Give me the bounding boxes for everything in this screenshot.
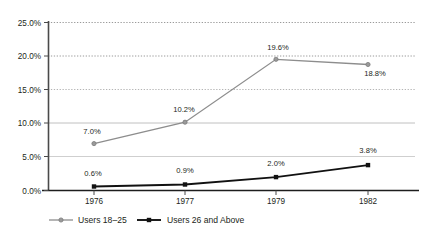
data-point-marker[interactable] [366,62,370,66]
x-tick-label-1977: 1977 [176,197,195,206]
series-2-data-labels: 0.6% 0.9% 2.0% 3.8% [84,146,377,178]
legend-circle-marker-icon [59,218,63,222]
data-point-marker[interactable] [183,120,187,124]
y-tick-label-20: 20.0% [18,52,41,61]
legend-label-users-26-and-above: Users 26 and Above [167,215,245,225]
legend-item-users-26-and-above[interactable]: Users 26 and Above [137,215,245,225]
y-tick-label-15: 15.0% [18,86,41,95]
data-point-marker[interactable] [183,182,187,186]
y-tick-label-10: 10.0% [18,119,41,128]
data-label: 19.6% [267,43,289,52]
data-label: 3.8% [359,146,377,155]
series-users-26-and-above: 0.6% 0.9% 2.0% 3.8% [84,146,377,189]
x-tick-label-1982: 1982 [359,197,378,206]
y-tick-label-5: 5.0% [22,153,41,162]
legend-item-users-18-25[interactable]: Users 18–25 [49,215,127,225]
data-point-marker[interactable] [366,163,370,167]
data-point-marker[interactable] [274,175,278,179]
chart-canvas: 25.0% 20.0% 15.0% 10.0% 5.0% 0.0% 1976 1… [0,0,437,240]
data-point-marker[interactable] [92,142,96,146]
series-users-18-25: 7.0% 10.2% 19.6% 18.8% [83,43,386,146]
data-label: 0.6% [84,169,102,178]
data-label: 18.8% [364,69,386,78]
line-chart: 25.0% 20.0% 15.0% 10.0% 5.0% 0.0% 1976 1… [0,0,437,240]
series-1-line [94,59,368,143]
legend-label-users-18-25: Users 18–25 [78,215,127,225]
series-1-markers [92,57,370,146]
x-axis-labels: 1976 1977 1979 1982 [85,197,378,206]
data-point-marker[interactable] [274,57,278,61]
legend-square-marker-icon [147,218,151,222]
data-label: 7.0% [83,127,101,136]
data-point-marker[interactable] [92,184,96,188]
series-2-line [94,165,368,186]
y-tick-label-0: 0.0% [22,187,41,196]
y-tick-label-25: 25.0% [18,19,41,28]
chart-legend: Users 18–25 Users 26 and Above [49,215,245,225]
data-label: 0.9% [176,166,194,175]
data-label: 2.0% [267,159,285,168]
y-axis-labels: 25.0% 20.0% 15.0% 10.0% 5.0% 0.0% [18,19,41,196]
data-label: 10.2% [173,105,195,114]
x-tick-label-1979: 1979 [267,197,286,206]
x-tick-label-1976: 1976 [85,197,104,206]
